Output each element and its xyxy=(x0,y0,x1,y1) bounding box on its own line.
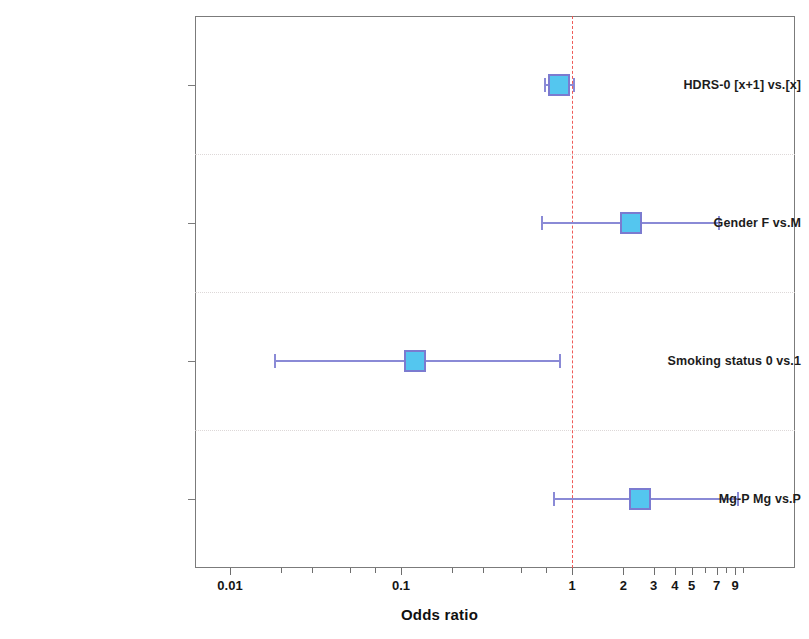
point-estimate-marker[interactable] xyxy=(548,74,570,96)
x-axis-tick xyxy=(654,568,655,575)
gridline-separator xyxy=(195,292,795,293)
category-label: Mg-P Mg vs.P xyxy=(619,492,809,506)
x-axis-tick xyxy=(692,568,693,575)
y-axis-tick xyxy=(188,223,195,224)
x-axis-tick xyxy=(401,568,402,575)
x-axis-title-text: Odds ratio xyxy=(401,606,478,623)
ci-cap-upper xyxy=(573,78,575,92)
category-label: Gender F vs.M xyxy=(619,216,809,230)
x-axis-tick xyxy=(735,568,736,575)
x-axis-title: Odds ratio xyxy=(0,606,809,623)
x-axis-tick xyxy=(572,568,573,575)
reference-line-or-1 xyxy=(572,16,573,568)
x-axis-tick xyxy=(350,568,351,573)
category-label: HDRS-0 [x+1] vs.[x] xyxy=(619,78,809,92)
x-axis-tick xyxy=(675,568,676,575)
x-axis-tick-label: 7 xyxy=(713,578,720,593)
x-axis-tick-label: 9 xyxy=(732,578,739,593)
point-estimate-marker[interactable] xyxy=(404,350,426,372)
x-axis-tick-label: 0.01 xyxy=(217,578,242,593)
plot-area xyxy=(195,16,795,568)
x-axis-tick-label: 2 xyxy=(620,578,627,593)
ci-cap-lower xyxy=(274,354,276,368)
x-axis-tick xyxy=(623,568,624,575)
x-axis-tick xyxy=(521,568,522,573)
y-axis-tick xyxy=(188,85,195,86)
x-axis-tick-label: 5 xyxy=(688,578,695,593)
x-axis-tick-label: 1 xyxy=(568,578,575,593)
x-axis-tick xyxy=(375,568,376,573)
x-axis-tick xyxy=(743,568,744,573)
y-axis-tick xyxy=(188,499,195,500)
x-axis-tick xyxy=(452,568,453,573)
ci-cap-lower xyxy=(544,78,546,92)
x-axis-tick-label: 3 xyxy=(650,578,657,593)
gridline-separator xyxy=(195,154,795,155)
x-axis-tick xyxy=(546,568,547,573)
x-axis-tick xyxy=(230,568,231,575)
gridline-separator xyxy=(195,430,795,431)
ci-cap-lower xyxy=(553,492,555,506)
x-axis-tick xyxy=(312,568,313,573)
forest-plot: HDRS-0 [x+1] vs.[x]Gender F vs.MSmoking … xyxy=(0,0,809,639)
y-axis-tick xyxy=(188,361,195,362)
category-label: Smoking status 0 vs.1 xyxy=(619,354,809,368)
x-axis-tick xyxy=(483,568,484,573)
x-axis-tick xyxy=(726,568,727,573)
x-axis-tick xyxy=(281,568,282,573)
ci-cap-lower xyxy=(541,216,543,230)
ci-cap-upper xyxy=(559,354,561,368)
x-axis-tick xyxy=(705,568,706,573)
x-axis-tick-label: 4 xyxy=(671,578,678,593)
x-axis-tick xyxy=(717,568,718,575)
x-axis-tick-label: 0.1 xyxy=(392,578,410,593)
